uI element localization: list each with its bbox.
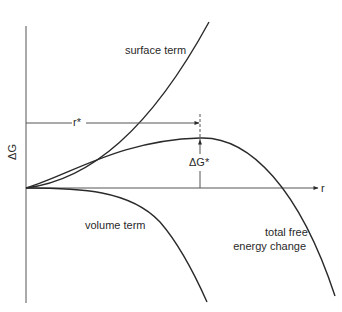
total-free-energy-curve (26, 138, 335, 296)
surface-term-label: surface term (125, 44, 186, 56)
total-free-energy-label-line1: total free (265, 226, 306, 238)
volume-term-label: volume term (85, 219, 146, 231)
nucleation-free-energy-diagram: surface term r* ΔG ΔG* r volume term tot… (0, 0, 342, 312)
critical-radius-label: r* (73, 116, 81, 128)
y-axis-label: ΔG (6, 144, 18, 160)
x-axis-label: r (321, 182, 325, 194)
total-free-energy-label-line2: energy change (230, 240, 306, 252)
volume-term-curve (26, 188, 207, 302)
barrier-label: ΔG* (189, 156, 209, 168)
